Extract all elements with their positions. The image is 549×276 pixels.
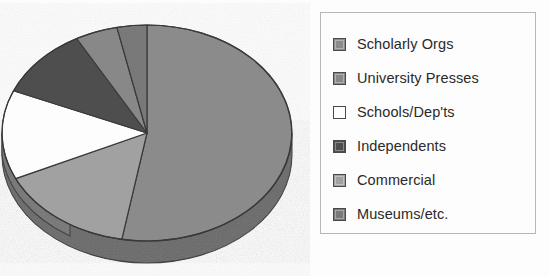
legend-label: Commercial	[357, 173, 435, 188]
legend-label: Scholarly Orgs	[357, 37, 454, 52]
legend-label: Independents	[357, 139, 446, 154]
legend-item-museums-etc[interactable]: Museums/etc.	[333, 197, 535, 231]
chart-figure: Scholarly Orgs University Presses School…	[0, 0, 549, 276]
legend-swatch-icon	[333, 174, 346, 187]
legend-item-university-presses[interactable]: University Presses	[333, 61, 535, 95]
legend-item-scholarly-orgs[interactable]: Scholarly Orgs	[333, 27, 535, 61]
legend-swatch-icon	[333, 72, 346, 85]
legend-swatch-icon	[333, 140, 346, 153]
legend-item-commercial[interactable]: Commercial	[333, 163, 535, 197]
chart-legend: Scholarly Orgs University Presses School…	[320, 12, 536, 234]
legend-swatch-icon	[333, 106, 346, 119]
pie-chart-svg	[0, 0, 310, 276]
pie-slice-group	[2, 25, 292, 241]
legend-item-independents[interactable]: Independents	[333, 129, 535, 163]
legend-label: Museums/etc.	[357, 207, 448, 222]
legend-swatch-icon	[333, 208, 346, 221]
legend-label: University Presses	[357, 71, 479, 86]
pie-chart	[0, 0, 310, 276]
legend-swatch-icon	[333, 38, 346, 51]
legend-item-schools-depts[interactable]: Schools/Dep'ts	[333, 95, 535, 129]
legend-label: Schools/Dep'ts	[357, 105, 455, 120]
